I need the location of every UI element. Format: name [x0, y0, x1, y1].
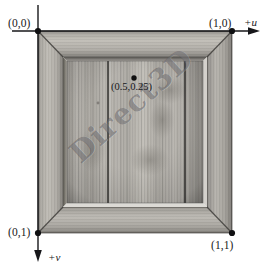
corner-marker-0-0	[35, 28, 41, 34]
axis-overlay	[0, 0, 270, 273]
point-label-0.5-0.25: (0.5,0.25)	[111, 82, 152, 93]
corner-marker-1-1	[229, 230, 235, 236]
corner-label-bottom-left: (0,1)	[8, 227, 31, 239]
v-axis-label: +v	[48, 252, 61, 263]
corner-label-bottom-right: (1,1)	[211, 240, 234, 252]
point-marker-0.5-0.25	[131, 75, 136, 80]
u-axis-arrowhead	[248, 27, 260, 35]
corner-label-top-left: (0,0)	[8, 18, 31, 30]
u-axis-label: +u	[244, 17, 257, 28]
v-axis-arrowhead	[34, 250, 42, 262]
corner-label-top-right: (1,0)	[209, 18, 232, 30]
texture-coordinate-figure: Direct3D (0,0) (1,0) (0,1) (1,1) +u +v (…	[0, 0, 270, 273]
corner-marker-0-1	[35, 230, 41, 236]
